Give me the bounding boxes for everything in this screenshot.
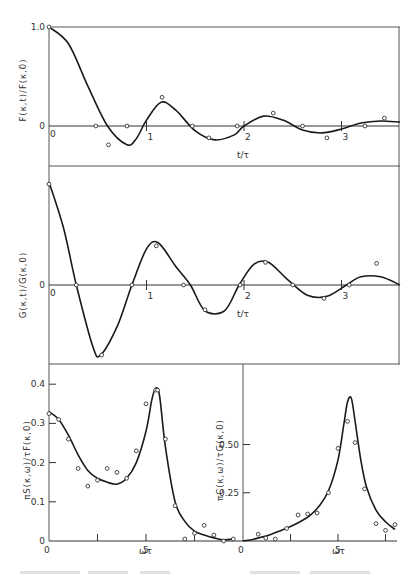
fit-curve-S bbox=[49, 388, 233, 540]
y-tick-label: 0 bbox=[39, 280, 45, 290]
data-point bbox=[107, 143, 111, 147]
x-tick-label: 3 bbox=[343, 291, 349, 301]
data-point bbox=[212, 533, 216, 537]
data-point bbox=[222, 539, 226, 543]
fit-curve-F bbox=[49, 27, 400, 145]
data-point bbox=[238, 283, 242, 287]
data-point bbox=[207, 136, 211, 140]
data-point bbox=[173, 504, 177, 508]
data-point bbox=[285, 527, 289, 531]
data-point bbox=[363, 124, 367, 128]
data-point bbox=[125, 124, 129, 128]
y-tick-label: 0 bbox=[39, 536, 45, 546]
data-point bbox=[144, 402, 148, 406]
y-tick-label: 0.2 bbox=[31, 458, 45, 468]
x-axis-label: ωτ bbox=[332, 546, 345, 556]
data-point bbox=[202, 523, 206, 527]
data-point bbox=[190, 124, 194, 128]
data-point bbox=[353, 441, 357, 445]
x-axis-label: ωτ bbox=[139, 546, 152, 556]
data-point bbox=[47, 182, 51, 186]
data-point bbox=[160, 95, 164, 99]
data-point bbox=[86, 484, 90, 488]
data-point bbox=[96, 478, 100, 482]
data-point bbox=[105, 467, 109, 471]
data-point bbox=[347, 283, 351, 287]
y-axis-label: F(κ,t)/F(κ,0) bbox=[18, 58, 28, 121]
data-point bbox=[125, 476, 129, 480]
data-point bbox=[193, 531, 197, 535]
data-point bbox=[164, 437, 168, 441]
data-point bbox=[336, 446, 340, 450]
data-point bbox=[256, 532, 260, 536]
x-tick-label: 1 bbox=[148, 291, 154, 301]
data-point bbox=[134, 449, 138, 453]
data-point bbox=[231, 537, 235, 541]
data-point bbox=[154, 244, 158, 248]
y-axis-label: πC(κ,ω)/τG(κ,0) bbox=[215, 419, 225, 501]
data-point bbox=[57, 418, 61, 422]
data-point bbox=[264, 536, 268, 540]
data-point bbox=[100, 353, 104, 357]
panel-G-correlation: 1230t/τ0G(κ,t)/G(κ,0) bbox=[18, 182, 400, 357]
x-tick-label: 3 bbox=[343, 132, 349, 142]
data-point bbox=[383, 116, 387, 120]
panel-C-spectrum: 50ωτ0.250.50πC(κ,ω)/τG(κ,0) bbox=[215, 397, 397, 556]
data-point bbox=[374, 522, 378, 526]
y-tick-label: 0.1 bbox=[31, 497, 45, 507]
data-point bbox=[306, 512, 310, 516]
data-point bbox=[291, 283, 295, 287]
x-tick-label: 2 bbox=[245, 291, 251, 301]
panel-S-spectrum: 50ωτ00.10.20.30.4πS(κ,ω)/τF(κ,0) bbox=[22, 379, 243, 556]
x-tick-label: 1 bbox=[148, 132, 154, 142]
panel-F-correlation: 1230t/τ1.00F(κ,t)/F(κ,0) bbox=[18, 22, 400, 160]
data-point bbox=[363, 487, 367, 491]
figure: 1230t/τ1.00F(κ,t)/F(κ,0) 1230t/τ0G(κ,t)/… bbox=[0, 0, 418, 582]
data-point bbox=[384, 528, 388, 532]
x-tick-label: 2 bbox=[245, 132, 251, 142]
data-point bbox=[47, 412, 51, 416]
x-origin-label: 0 bbox=[50, 288, 56, 298]
data-point bbox=[156, 388, 160, 392]
data-point bbox=[183, 537, 187, 541]
fit-curve-C bbox=[243, 397, 395, 541]
x-axis-label: t/τ bbox=[237, 150, 249, 160]
x-origin-label: 0 bbox=[44, 545, 50, 555]
data-point bbox=[115, 471, 119, 475]
data-point bbox=[264, 260, 268, 264]
x-axis-label: t/τ bbox=[237, 309, 249, 319]
fit-curve-G bbox=[49, 182, 400, 357]
data-point bbox=[273, 537, 277, 541]
data-point bbox=[47, 25, 51, 29]
data-point bbox=[74, 283, 78, 287]
y-tick-label: 0 bbox=[39, 121, 45, 131]
data-point bbox=[315, 511, 319, 515]
y-tick-label: 0.3 bbox=[31, 418, 45, 428]
data-point bbox=[67, 437, 71, 441]
data-point bbox=[182, 283, 186, 287]
data-point bbox=[271, 111, 275, 115]
y-tick-label: 1.0 bbox=[31, 22, 46, 32]
y-tick-label: 0.4 bbox=[31, 379, 46, 389]
data-point bbox=[94, 124, 98, 128]
data-point bbox=[325, 136, 329, 140]
x-origin-label: 0 bbox=[50, 129, 56, 139]
data-point bbox=[76, 467, 80, 471]
x-origin-label: 0 bbox=[238, 545, 244, 555]
data-point bbox=[375, 261, 379, 265]
data-point bbox=[346, 419, 350, 423]
y-axis-label: πS(κ,ω)/τF(κ,0) bbox=[22, 420, 32, 500]
data-point bbox=[296, 513, 300, 517]
caption-faint bbox=[20, 571, 370, 574]
data-point bbox=[322, 296, 326, 300]
data-point bbox=[301, 124, 305, 128]
data-point bbox=[235, 124, 239, 128]
data-point bbox=[393, 523, 397, 527]
data-point bbox=[130, 283, 134, 287]
data-point bbox=[327, 491, 331, 495]
y-axis-label: G(κ,t)/G(κ,0) bbox=[18, 252, 28, 318]
data-point bbox=[203, 308, 207, 312]
